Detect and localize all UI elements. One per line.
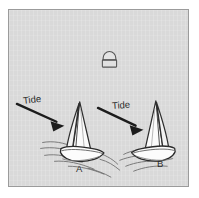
- boat-label-a: A: [76, 163, 82, 174]
- mooring-buoy-icon: [102, 52, 116, 68]
- tide-arrow-b-icon: [98, 108, 143, 135]
- hull-a: [60, 147, 104, 162]
- sailboat-b: [120, 101, 175, 171]
- boat-label-b: B: [157, 158, 163, 169]
- figure-frame: Tide Tide A B: [8, 9, 189, 187]
- tide-label-a: Tide: [22, 93, 41, 106]
- tide-arrow-a-icon: [17, 104, 64, 131]
- hull-b: [132, 146, 176, 161]
- tide-label-b: Tide: [112, 99, 131, 111]
